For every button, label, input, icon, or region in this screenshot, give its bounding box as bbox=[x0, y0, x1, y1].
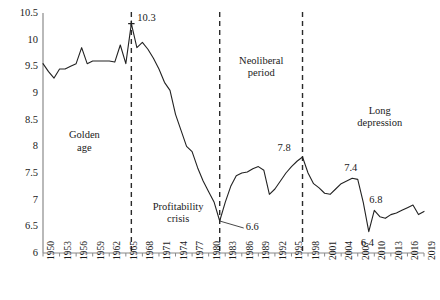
x-axis-tick-label: 1974 bbox=[180, 241, 190, 260]
x-axis-tick-label: 1962 bbox=[113, 241, 123, 260]
x-axis-tick-label: 1968 bbox=[146, 241, 156, 260]
annotation-value-label: 7.8 bbox=[278, 143, 291, 154]
annotation-leader-line bbox=[220, 221, 244, 228]
annotation-markers bbox=[128, 20, 244, 228]
period-label-line: crisis bbox=[153, 213, 204, 225]
x-axis-tick-label: 1971 bbox=[163, 241, 173, 260]
y-axis-tick-label: 8 bbox=[33, 141, 38, 152]
y-axis-tick-label: 7 bbox=[33, 195, 38, 206]
period-label-profitability-crisis: Profitabilitycrisis bbox=[153, 201, 204, 226]
x-axis-tick-label: 1983 bbox=[229, 241, 239, 260]
y-axis-tick-label: 9.5 bbox=[25, 61, 38, 72]
period-label-line: age bbox=[69, 142, 100, 154]
x-axis-tick-label: 1989 bbox=[262, 241, 272, 260]
x-axis-tick-label: 1998 bbox=[312, 241, 322, 260]
y-axis-tick-label: 8.5 bbox=[25, 115, 38, 126]
x-axis-tick-label: 1965 bbox=[130, 241, 140, 260]
x-axis-tick-label: 1959 bbox=[97, 241, 107, 260]
y-axis-tick-label: 6 bbox=[33, 248, 38, 259]
period-label-line: Golden bbox=[69, 129, 100, 141]
annotation-value-label: 7.4 bbox=[344, 163, 357, 174]
x-axis-tick-label: 2010 bbox=[378, 241, 388, 260]
annotation-value-label: 10.3 bbox=[137, 13, 155, 24]
annotation-value-label: 6.4 bbox=[361, 238, 374, 249]
x-axis-tick-label: 1995 bbox=[295, 241, 305, 260]
period-label-line: Long bbox=[357, 105, 402, 117]
y-axis-tick-label: 10 bbox=[28, 35, 39, 46]
period-label-line: Profitability bbox=[153, 201, 204, 213]
x-axis-tick-label: 2001 bbox=[329, 241, 339, 260]
axes bbox=[43, 13, 424, 253]
annotation-marker bbox=[128, 20, 134, 26]
period-label-line: period bbox=[239, 67, 283, 79]
annotation-value-label: 6.6 bbox=[246, 222, 259, 233]
x-axis-tick-label: 1986 bbox=[246, 241, 256, 260]
x-axis-tick-label: 1953 bbox=[64, 241, 74, 260]
period-label-long-depression: Longdepression bbox=[357, 105, 402, 130]
y-axis-tick-label: 7.5 bbox=[25, 168, 38, 179]
y-axis-tick-label: 9 bbox=[33, 88, 38, 99]
x-axis-tick-label: 2019 bbox=[428, 241, 438, 260]
period-label-golden-age: Goldenage bbox=[69, 129, 100, 154]
period-label-line: depression bbox=[357, 117, 402, 129]
x-axis-tick-label: 2013 bbox=[395, 241, 405, 260]
y-axis-tick-label: 10.5 bbox=[20, 8, 38, 19]
x-axis-tick-label: 1950 bbox=[47, 241, 57, 260]
period-label-line: Neoliberal bbox=[239, 55, 283, 67]
x-axis-tick-label: 1977 bbox=[196, 241, 206, 260]
x-axis-tick-label: 1956 bbox=[80, 241, 90, 260]
y-axis-tick-label: 6.5 bbox=[25, 221, 38, 232]
x-axis-tick-label: 2016 bbox=[411, 241, 421, 260]
x-axis-tick-label: 1992 bbox=[279, 241, 289, 260]
line-chart: 10.5109.598.587.576.56 19501953195619591… bbox=[0, 0, 440, 300]
annotation-value-label: 6.8 bbox=[369, 195, 382, 206]
x-axis-tick-label: 1980 bbox=[213, 241, 223, 260]
x-axis-tick-label: 2004 bbox=[345, 241, 355, 260]
period-label-neoliberal-period: Neoliberalperiod bbox=[239, 55, 283, 80]
